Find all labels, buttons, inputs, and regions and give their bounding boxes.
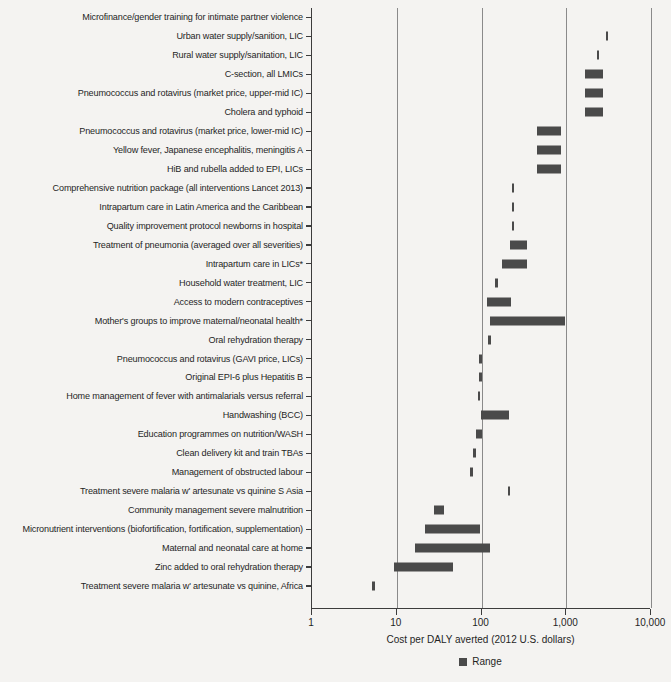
chart-row: Clean delivery kit and train TBAs — [0, 444, 671, 463]
y-axis-tick — [306, 301, 311, 302]
y-axis-tick — [306, 547, 311, 548]
range-bar — [537, 127, 562, 136]
range-bar — [479, 373, 482, 382]
range-bar — [415, 543, 490, 552]
x-tick-mark-1000 — [565, 609, 566, 615]
chart-row: Treatment severe malaria w' artesunate v… — [0, 482, 671, 501]
range-bar — [512, 183, 515, 192]
chart-row: Pneumococcus and rotavirus (market price… — [0, 84, 671, 103]
chart-row: Intrapartum care in LICs* — [0, 254, 671, 273]
chart-rows: Microfinance/gender training for intimat… — [0, 8, 671, 609]
chart-row: Maternal and neonatal care at home — [0, 539, 671, 558]
x-tick-mark-1 — [311, 609, 312, 615]
chart-row: Handwashing (BCC) — [0, 406, 671, 425]
range-bar — [585, 89, 603, 98]
range-bar — [490, 316, 565, 325]
category-label: Access to modern contraceptives — [174, 296, 303, 307]
chart-figure: Microfinance/gender training for intimat… — [0, 0, 671, 682]
chart-row: Management of obstructed labour — [0, 463, 671, 482]
chart-row: Yellow fever, Japanese encephalitis, men… — [0, 141, 671, 160]
category-label: Handwashing (BCC) — [223, 410, 303, 421]
range-bar — [425, 525, 481, 534]
x-tick-label-100: 100 — [472, 617, 489, 628]
chart-row: Home management of fever with antimalari… — [0, 387, 671, 406]
y-axis-tick — [306, 112, 311, 113]
chart-row: Education programmes on nutrition/WASH — [0, 425, 671, 444]
chart-row: Pneumococcus and rotavirus (GAVI price, … — [0, 349, 671, 368]
x-axis-tick-labels: 1101001,00010,000 — [0, 617, 671, 631]
range-bar — [508, 487, 511, 496]
range-bar — [372, 581, 375, 590]
chart-row: Intrapartum care in Latin America and th… — [0, 197, 671, 216]
category-label: Management of obstructed labour — [172, 467, 303, 478]
y-axis-tick — [306, 150, 311, 151]
category-label: Yellow fever, Japanese encephalitis, men… — [113, 145, 303, 156]
range-bar — [585, 108, 603, 117]
x-tick-label-10: 10 — [390, 617, 401, 628]
category-label: Zinc added to oral rehydration therapy — [155, 561, 303, 572]
y-axis-tick — [306, 585, 311, 586]
category-label: Intrapartum care in Latin America and th… — [99, 201, 303, 212]
chart-row: Micronutrient interventions (biofortific… — [0, 520, 671, 539]
chart-row: Community management severe malnutrition — [0, 501, 671, 520]
category-label: Intrapartum care in LICs* — [206, 258, 303, 269]
y-axis-tick — [306, 131, 311, 132]
chart-row: Original EPI-6 plus Hepatitis B — [0, 368, 671, 387]
chart-row: Zinc added to oral rehydration therapy — [0, 557, 671, 576]
category-label: Oral rehydration therapy — [209, 334, 303, 345]
category-label: C-section, all LMICs — [225, 69, 303, 80]
range-bar — [585, 70, 603, 79]
category-label: Maternal and neonatal care at home — [162, 542, 303, 553]
category-label: Home management of fever with antimalari… — [66, 391, 303, 402]
range-bar — [502, 259, 526, 268]
range-bar — [537, 146, 562, 155]
category-label: Micronutrient interventions (biofortific… — [23, 524, 303, 535]
y-axis-tick — [306, 225, 311, 226]
category-label: Treatment severe malaria w' artesunate v… — [80, 486, 303, 497]
y-axis-tick — [306, 472, 311, 473]
y-axis-tick — [306, 396, 311, 397]
legend-swatch-range — [459, 658, 467, 666]
y-axis-tick — [306, 566, 311, 567]
range-bar — [597, 51, 600, 60]
chart-row: C-section, all LMICs — [0, 65, 671, 84]
chart-row: Urban water supply/sanition, LIC — [0, 27, 671, 46]
category-label: Community management severe malnutrition — [128, 505, 303, 516]
y-axis-tick — [306, 36, 311, 37]
range-bar — [470, 468, 473, 477]
x-axis-tick-marks — [0, 609, 671, 616]
range-bar — [488, 335, 491, 344]
x-tick-mark-100 — [481, 609, 482, 615]
y-axis-tick — [306, 415, 311, 416]
chart-row: Treatment of pneumonia (averaged over al… — [0, 235, 671, 254]
x-tick-mark-10 — [396, 609, 397, 615]
y-axis-tick — [306, 377, 311, 378]
y-axis-tick — [306, 74, 311, 75]
category-label: Rural water supply/sanitation, LIC — [172, 50, 303, 61]
range-bar — [606, 32, 609, 41]
chart-row: Household water treatment, LIC — [0, 273, 671, 292]
chart-legend: Range — [311, 656, 650, 667]
y-axis-tick — [306, 206, 311, 207]
chart-row: Access to modern contraceptives — [0, 292, 671, 311]
category-label: Clean delivery kit and train TBAs — [176, 448, 303, 459]
chart-row: Cholera and typhoid — [0, 103, 671, 122]
y-axis-tick — [306, 529, 311, 530]
category-label: Cholera and typhoid — [224, 107, 303, 118]
y-axis-tick — [306, 320, 311, 321]
x-axis-title: Cost per DALY averted (2012 U.S. dollars… — [311, 634, 650, 645]
category-label: Education programmes on nutrition/WASH — [138, 429, 303, 440]
category-label: HiB and rubella added to EPI, LICs — [167, 164, 303, 175]
range-bar — [512, 221, 515, 230]
y-axis-tick — [306, 244, 311, 245]
y-axis-tick — [306, 55, 311, 56]
range-bar — [476, 430, 482, 439]
y-axis-tick — [306, 491, 311, 492]
y-axis-tick — [306, 263, 311, 264]
category-label: Quality improvement protocol newborns in… — [107, 220, 303, 231]
y-axis-tick — [306, 282, 311, 283]
y-axis-tick — [306, 510, 311, 511]
range-bar — [510, 240, 527, 249]
y-axis-tick — [306, 434, 311, 435]
x-tick-label-10000: 10,000 — [635, 617, 666, 628]
